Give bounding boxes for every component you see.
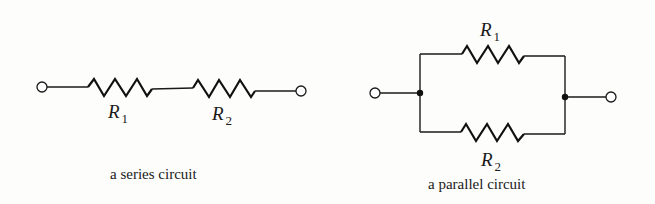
parallel-terminal-right (606, 92, 616, 102)
series-terminal-right (296, 86, 306, 96)
parallel-r1-label: R1 (480, 20, 500, 39)
series-resistor-r2 (193, 80, 255, 97)
series-circuit (37, 79, 306, 97)
series-r2-label: R2 (212, 104, 232, 123)
parallel-terminal-left (370, 88, 380, 98)
series-terminal-left (37, 82, 47, 92)
series-r1-subscript: 1 (122, 111, 129, 126)
parallel-r1-symbol: R (480, 19, 492, 40)
series-r2-symbol: R (212, 103, 224, 124)
series-r2-subscript: 2 (226, 113, 233, 128)
parallel-r2-symbol: R (481, 149, 493, 170)
series-r1-symbol: R (108, 101, 120, 122)
series-wire-middle (152, 88, 193, 89)
parallel-r2-subscript: 2 (495, 159, 502, 174)
parallel-junction-right (562, 94, 568, 100)
parallel-r1-subscript: 1 (494, 29, 501, 44)
series-caption: a series circuit (110, 167, 197, 182)
circuit-drawing (0, 0, 655, 204)
parallel-junction-left (417, 90, 423, 96)
parallel-circuit (370, 46, 616, 141)
parallel-resistor-r1 (462, 46, 524, 63)
parallel-caption: a parallel circuit (428, 177, 525, 192)
parallel-resistor-r2 (461, 124, 524, 141)
series-r1-label: R1 (108, 102, 128, 121)
parallel-r2-label: R2 (481, 150, 501, 169)
series-resistor-r1 (88, 79, 152, 96)
circuit-diagrams: R1 R2 a series circuit R1 R2 a parallel … (0, 0, 655, 204)
